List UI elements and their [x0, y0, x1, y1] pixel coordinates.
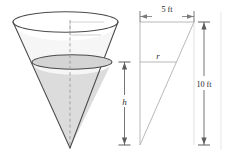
height-h-dimension: h [119, 62, 131, 145]
triangle-hypotenuse [140, 22, 194, 145]
triangle-group: r [140, 22, 194, 145]
label-top-width: 5 ft [161, 5, 173, 14]
height-10ft-dimension: 10 ft [196, 22, 213, 145]
width-arrow-right [187, 14, 194, 19]
label-full-height: 10 ft [196, 80, 212, 89]
label-water-radius: r [156, 51, 160, 61]
width-5ft-dimension: 5 ft [140, 5, 194, 23]
cone-water-body [32, 62, 112, 148]
full-height-arrow-down [201, 138, 206, 145]
figure-canvas: h r 5 ft [0, 0, 230, 157]
cone-group [13, 12, 118, 148]
geometry-figure: h r 5 ft [0, 0, 230, 157]
h-arrow-down [122, 138, 127, 145]
width-arrow-left [141, 14, 148, 19]
label-water-height: h [122, 97, 127, 107]
h-arrow-up [122, 63, 127, 70]
water-surface-ellipse [32, 55, 112, 69]
cone-construction-lines [70, 22, 104, 35]
full-height-arrow-up [201, 23, 206, 30]
